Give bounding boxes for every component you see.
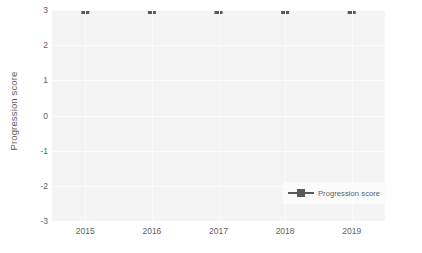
y-axis-tick-label: 2	[43, 40, 48, 50]
x-axis-tick-labels: 20152016201720182019	[52, 226, 385, 240]
y-axis-tick-label: -3	[40, 216, 48, 226]
y-axis-tick-label: 1	[43, 75, 48, 85]
gridline-vertical	[219, 10, 220, 221]
x-axis-tick-label: 2016	[142, 226, 161, 236]
y-axis-tick-labels: 3210-1-2-3	[26, 10, 48, 221]
y-axis-tick-label: 3	[43, 5, 48, 15]
y-axis-title: Progression score	[2, 0, 24, 222]
legend: Progression score	[283, 182, 387, 204]
y-axis-tick-label: -2	[40, 181, 48, 191]
y-axis-title-label: Progression score	[8, 71, 19, 150]
x-axis-tick-label: 2019	[342, 226, 361, 236]
x-axis-tick-label: 2017	[209, 226, 228, 236]
x-axis-tick-label: 2015	[76, 226, 95, 236]
x-axis-tick-label: 2018	[276, 226, 295, 236]
legend-item-progression-score: Progression score	[288, 188, 380, 198]
line-chart: Progression score 3210-1-2-3 20152016201…	[0, 0, 422, 253]
y-axis-tick-label: -1	[40, 146, 48, 156]
legend-line-marker-icon	[288, 188, 314, 198]
gridline-vertical	[152, 10, 153, 221]
gridline-vertical	[85, 10, 86, 221]
legend-item-label: Progression score	[318, 189, 380, 198]
y-axis-tick-label: 0	[43, 111, 48, 121]
